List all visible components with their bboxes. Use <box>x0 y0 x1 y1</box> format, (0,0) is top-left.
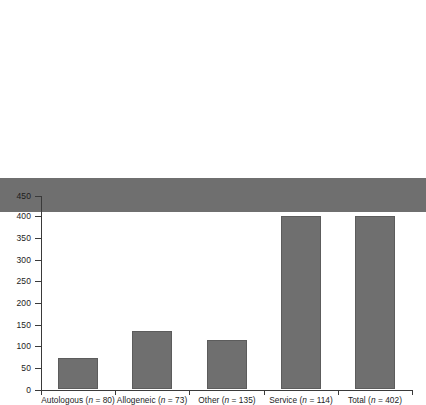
y-tick-label: 350 <box>17 233 31 243</box>
x-label-allogeneic-count: = 73) <box>165 395 187 405</box>
x-tick-mark <box>264 390 265 395</box>
x-label-other-name: Other <box>198 395 219 405</box>
bar-autologous[interactable] <box>58 358 98 389</box>
y-axis-line <box>41 196 42 391</box>
x-label-autologous: Autologous (n = 80) <box>41 395 115 405</box>
x-label-other: Other (n = 135) <box>198 395 255 405</box>
bar-allogeneic[interactable] <box>132 331 172 389</box>
bar-total[interactable] <box>355 216 395 389</box>
y-tick-label: 450 <box>17 191 31 201</box>
x-label-total: Total (n = 402) <box>348 395 402 405</box>
x-label-service-count: = 114) <box>307 395 333 405</box>
x-label-service-name: Service <box>269 395 297 405</box>
x-axis-line <box>41 390 413 391</box>
bar-chart: 0 50 100 150 200 250 300 350 400 450 Aut… <box>0 178 426 212</box>
y-tick-label: 150 <box>17 320 31 330</box>
bar-other[interactable] <box>207 340 247 389</box>
x-label-other-count: = 135) <box>229 395 255 405</box>
x-label-allogeneic-name: Allogeneic <box>117 395 156 405</box>
x-tick-mark <box>189 390 190 395</box>
bar-service[interactable] <box>281 216 321 389</box>
y-tick-label: 200 <box>17 298 31 308</box>
x-label-autologous-count: = 80) <box>93 395 115 405</box>
x-label-allogeneic: Allogeneic (n = 73) <box>117 395 187 405</box>
y-tick-label: 0 <box>26 385 31 395</box>
x-label-autologous-name: Autologous <box>41 395 83 405</box>
x-label-total-count: = 402) <box>376 395 402 405</box>
x-label-total-name: Total <box>348 395 366 405</box>
y-tick-label: 400 <box>17 211 31 221</box>
y-tick-label: 300 <box>17 255 31 265</box>
y-tick-label: 100 <box>17 341 31 351</box>
x-tick-mark <box>338 390 339 395</box>
x-label-service: Service (n = 114) <box>269 395 333 405</box>
y-tick-label: 50 <box>21 363 31 373</box>
y-tick-label: 250 <box>17 276 31 286</box>
x-tick-mark <box>412 390 413 395</box>
